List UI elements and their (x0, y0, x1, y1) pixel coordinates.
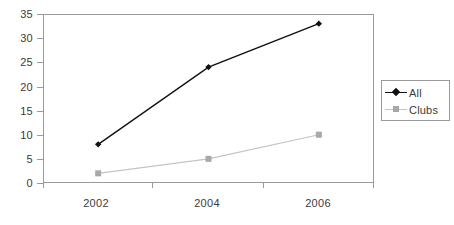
y-tick-label: 10 (20, 129, 33, 141)
legend-label-clubs: Clubs (407, 104, 438, 116)
square-marker-icon (385, 104, 407, 115)
x-tick-label-2002: 2002 (83, 197, 109, 209)
y-tick-label: 5 (27, 153, 33, 165)
y-tick-label: 25 (20, 56, 33, 68)
legend-label-all: All (407, 87, 422, 99)
legend-entry-all: All (385, 84, 447, 101)
x-tick-mark (43, 183, 44, 188)
y-tick-label: 0 (27, 177, 33, 189)
plot-area (43, 14, 374, 183)
y-tick-label: 20 (20, 81, 33, 93)
diamond-marker-icon (385, 87, 407, 98)
chart-screenshot: 35 30 25 20 15 10 5 0 2002 2004 2006 (0, 0, 454, 225)
y-tick-label: 30 (20, 32, 33, 44)
y-tick-label: 35 (20, 8, 33, 20)
x-tick-mark (373, 183, 374, 188)
y-axis: 35 30 25 20 15 10 5 0 (0, 0, 33, 225)
x-tick-mark (152, 183, 153, 188)
chart-legend: All Clubs (381, 80, 450, 121)
x-tick-label-2006: 2006 (305, 197, 331, 209)
y-tick-label: 15 (20, 105, 33, 117)
x-tick-label-2004: 2004 (194, 197, 220, 209)
legend-entry-clubs: Clubs (385, 101, 447, 118)
x-tick-mark (263, 183, 264, 188)
